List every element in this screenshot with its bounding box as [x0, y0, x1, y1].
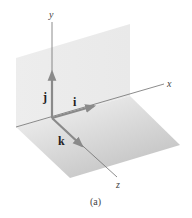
j-vector-label: j	[42, 90, 47, 104]
x-axis-label: x	[166, 78, 172, 89]
y-axis-label: y	[48, 9, 54, 20]
coordinate-system-diagram: y x z j i k (a)	[0, 0, 192, 218]
k-vector-label: k	[58, 134, 65, 148]
figure-caption: (a)	[90, 196, 101, 208]
z-axis-label: z	[115, 179, 120, 190]
